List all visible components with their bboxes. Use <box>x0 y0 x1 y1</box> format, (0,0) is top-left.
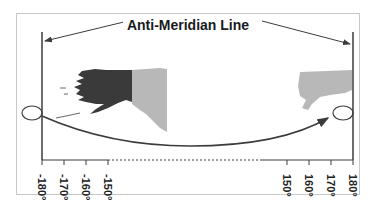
alaska-islands <box>56 88 80 118</box>
tick-label: -150° <box>102 174 113 200</box>
tick-label: 170° <box>325 174 336 197</box>
alaska-region <box>74 69 132 114</box>
canada-region <box>132 68 167 132</box>
tick-label: -180° <box>36 174 47 200</box>
tick-label: -170° <box>58 174 69 200</box>
crossing-curve-arrow <box>42 116 328 146</box>
tick-label: 180° <box>347 174 358 197</box>
right-crossing-ellipse <box>333 106 353 120</box>
left-crossing-ellipse <box>22 106 42 120</box>
tick-label: 150° <box>281 174 292 197</box>
tick-label: 160° <box>303 174 314 197</box>
diagram-title: Anti-Meridian Line <box>0 17 376 33</box>
tick-label: -160° <box>80 174 91 200</box>
russia-region <box>298 70 352 110</box>
